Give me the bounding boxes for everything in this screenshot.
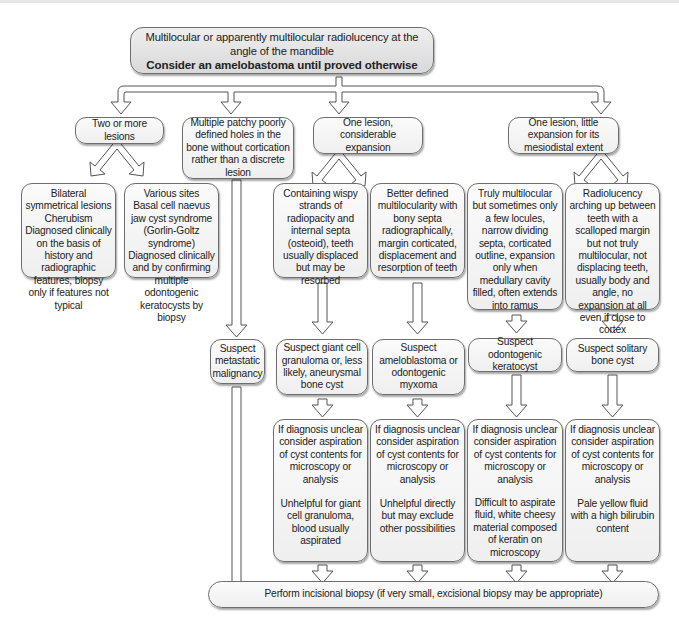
split-arrow-considerable [312, 149, 366, 186]
aspiration-result: Pale yellow fluid with a high bilirubin … [569, 498, 656, 535]
wispy-box: Containing wispy strands of radiopacity … [273, 183, 368, 278]
bilateral-note: Diagnosed clinically on the basis of his… [25, 225, 112, 312]
arrow-wispy-to-giant-cell [312, 283, 333, 334]
split-arrow-two-lesions [90, 139, 144, 176]
bilateral-box: Bilateral symmetrical lesions Cherubism … [21, 183, 116, 278]
suspect-text: Suspect ameloblastoma or odontogenic myx… [376, 342, 461, 392]
suspect-text: Suspect giant cell granuloma or, less li… [280, 342, 364, 392]
branch-label: One lesion, little expansion for its mes… [512, 117, 615, 154]
better-defined-box: Better defined multilocularity with bony… [370, 183, 465, 278]
arrow-ameloblastoma-to-aspiration [407, 399, 428, 417]
suspect-text: Suspect solitary bone cyst [570, 343, 655, 368]
aspiration-text: If diagnosis unclear consider aspiration… [277, 424, 364, 486]
suspect-ameloblastoma-box: Suspect ameloblastoma or odontogenic myx… [372, 339, 465, 395]
final-biopsy-box: Perform incisional biopsy (if very small… [208, 581, 659, 608]
arrow-solitary-to-aspiration [602, 375, 623, 417]
aspiration-text: If diagnosis unclear consider aspiration… [374, 424, 461, 486]
suspect-metastatic-box: Suspect metastatic malignancy [210, 339, 265, 384]
various-sites-box: Various sites Basal cell naevus jaw cyst… [124, 183, 219, 278]
arrow-giant-cell-to-aspiration [312, 399, 333, 417]
arrow-truly-to-keratocyst [506, 315, 527, 333]
aspiration-result: Difficult to aspirate fluid, white chees… [471, 497, 559, 559]
final-text: Perform incisional biopsy (if very small… [264, 588, 602, 600]
aspiration-text: If diagnosis unclear consider aspiration… [471, 424, 559, 486]
split-arrow-little [574, 149, 628, 186]
branch-considerable-expansion: One lesion, considerable expansion [313, 117, 423, 154]
various-diagnosis: Basal cell naevus jaw cyst syndrome (Gor… [128, 200, 215, 250]
branch-label: Two or more lesions [79, 118, 160, 143]
feature-text: Better defined multilocularity with bony… [374, 188, 461, 275]
bilateral-diagnosis: Cherubism [45, 213, 93, 225]
arrow-better-to-ameloblastoma [407, 283, 428, 334]
feature-text: Radiolucency arching up between teeth wi… [569, 188, 656, 337]
suspect-text: Suspect odontogenic keratocyst [472, 336, 558, 373]
suspect-solitary-box: Suspect solitary bone cyst [566, 338, 659, 372]
branch-patchy-holes: Multiple patchy poorly defined holes in … [182, 117, 294, 179]
title-box: Multilocular or apparently multilocular … [130, 27, 434, 74]
branch-label: One lesion, considerable expansion [317, 117, 419, 154]
feature-text: Containing wispy strands of radiopacity … [277, 188, 364, 287]
suspect-giant-cell-box: Suspect giant cell granuloma or, less li… [276, 339, 368, 395]
arrow-patchy-to-metastatic [226, 180, 247, 337]
aspiration-result: Unhelpful for giant cell granuloma, bloo… [277, 498, 364, 548]
aspiration-text: If diagnosis unclear consider aspiration… [569, 424, 656, 486]
suspect-keratocyst-box: Suspect odontogenic keratocyst [468, 338, 562, 372]
arrow-keratocyst-to-aspiration [506, 375, 527, 417]
truly-multilocular-box: Truly multilocular but sometimes only a … [467, 183, 563, 310]
radiolucency-box: Radiolucency arching up between teeth wi… [565, 183, 660, 310]
branch-two-or-more-lesions: Two or more lesions [75, 117, 164, 144]
suspect-text: Suspect metastatic malignancy [213, 343, 263, 380]
title-line: Multilocular or apparently multilocular … [134, 30, 430, 58]
aspiration-keratocyst-box: If diagnosis unclear consider aspiration… [467, 419, 563, 562]
arrow-metastatic-to-biopsy [226, 387, 247, 601]
aspiration-solitary-box: If diagnosis unclear consider aspiration… [565, 419, 660, 562]
aspiration-ameloblastoma-box: If diagnosis unclear consider aspiration… [370, 419, 465, 562]
bilateral-heading: Bilateral symmetrical lesions [25, 188, 112, 213]
title-emphasis: Consider an amelobastoma until proved ot… [146, 58, 417, 72]
aspiration-result: Unhelpful directly but may exclude other… [374, 498, 461, 535]
various-note: Diagnosed clinically and by confirming m… [128, 250, 215, 324]
branch-label: Multiple patchy poorly defined holes in … [186, 117, 290, 179]
feature-text: Truly multilocular but sometimes only a … [471, 188, 559, 312]
aspiration-giant-cell-box: If diagnosis unclear consider aspiration… [273, 419, 368, 562]
distribution-connector [111, 77, 611, 114]
various-heading: Various sites [144, 188, 200, 200]
branch-little-expansion: One lesion, little expansion for its mes… [508, 117, 619, 154]
